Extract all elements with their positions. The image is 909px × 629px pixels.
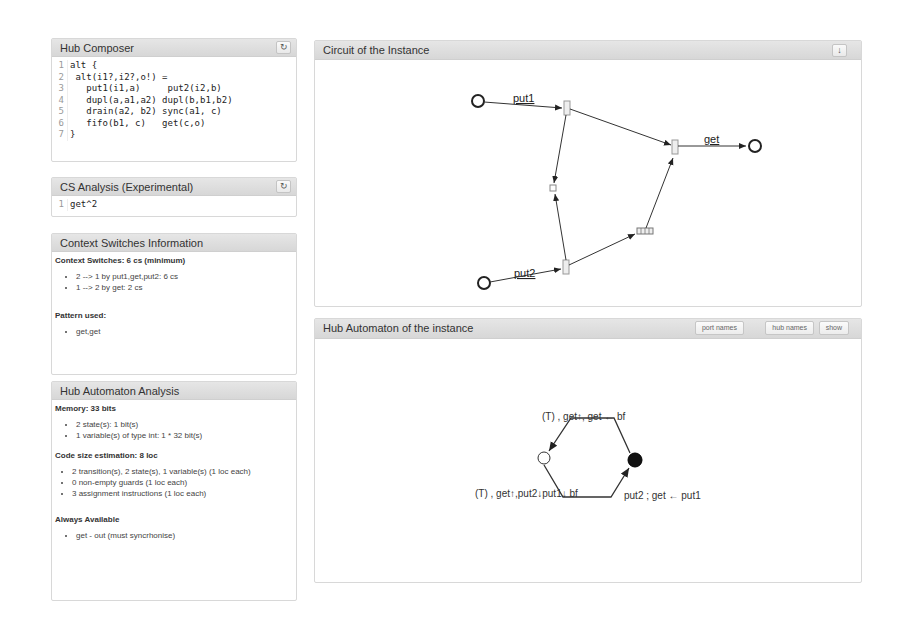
- hub-automaton-analysis-title: Hub Automaton Analysis: [60, 385, 179, 397]
- cs-analysis-title: CS Analysis (Experimental): [60, 181, 193, 193]
- bottom-left-transition-label: (T) , get↑,put2↓put1↓ bf: [475, 488, 578, 499]
- hub-composer-header: Hub Composer ↻: [52, 39, 296, 57]
- line-number: 7: [52, 129, 68, 141]
- line-number: 4: [52, 95, 68, 107]
- code-text: get^2: [70, 199, 97, 211]
- state-filled[interactable]: [628, 453, 642, 467]
- code-size-heading: Code size estimation: 8 loc: [55, 451, 296, 460]
- code-editor[interactable]: 1alt { 2 alt(i1?,i2?,o!) = 3 put1(i1,a) …: [52, 57, 296, 144]
- download-icon: ↓: [837, 45, 842, 55]
- download-button[interactable]: ↓: [832, 44, 847, 57]
- always-available-list: get - out (must syncrhonise): [52, 530, 296, 541]
- get-port-node[interactable]: [749, 140, 761, 152]
- code-text: }: [70, 129, 75, 141]
- list-item: get,get: [76, 326, 296, 337]
- pattern-list: get,get: [52, 326, 296, 337]
- code-size-list: 2 transition(s), 2 state(s), 1 variable(…: [52, 466, 296, 499]
- code-line: 3 put1(i1,a) put2(i2,b): [52, 83, 296, 95]
- refresh-icon: ↻: [280, 181, 288, 191]
- line-number: 1: [52, 60, 68, 72]
- code-text: drain(a2, b2) sync(a1, c): [70, 106, 222, 118]
- code-text: alt(i1?,i2?,o!) =: [70, 72, 168, 84]
- show-button[interactable]: show: [819, 321, 849, 335]
- always-available-heading: Always Available: [55, 515, 296, 524]
- code-line: 4 dupl(a,a1,a2) dupl(b,b1,b2): [52, 95, 296, 107]
- line-number: 1: [52, 199, 68, 211]
- cs-analysis-header: CS Analysis (Experimental) ↻: [52, 178, 296, 196]
- hub-automaton-analysis-panel: Hub Automaton Analysis Memory: 33 bits 2…: [51, 381, 297, 601]
- drain-node[interactable]: [550, 185, 556, 191]
- put2-label: put2: [514, 267, 535, 279]
- bottom-right-transition-label: put2 ; get ← put1: [624, 490, 701, 501]
- hub-automaton-analysis-header: Hub Automaton Analysis: [52, 382, 296, 400]
- code-line: 7}: [52, 129, 296, 141]
- hub-composer-title: Hub Composer: [60, 42, 134, 54]
- list-item: 1 --> 2 by get: 2 cs: [76, 282, 296, 293]
- list-item: 2 state(s): 1 bit(s): [76, 419, 296, 430]
- hub-names-button[interactable]: hub names: [765, 321, 814, 335]
- context-switches-title: Context Switches Information: [60, 237, 203, 249]
- memory-list: 2 state(s): 1 bit(s) 1 variable(s) of ty…: [52, 419, 296, 441]
- line-number: 5: [52, 106, 68, 118]
- list-item: 2 transition(s), 2 state(s), 1 variable(…: [72, 466, 296, 477]
- cs-code-editor[interactable]: 1get^2: [52, 196, 296, 214]
- cs-analysis-panel: CS Analysis (Experimental) ↻ 1get^2: [51, 177, 297, 217]
- line-number: 3: [52, 83, 68, 95]
- list-item: 1 variable(s) of type int: 1 * 32 bit(s): [76, 430, 296, 441]
- hub-composer-panel: Hub Composer ↻ 1alt { 2 alt(i1?,i2?,o!) …: [51, 38, 297, 162]
- put2-port-node[interactable]: [478, 277, 490, 289]
- circuit-title: Circuit of the Instance: [323, 44, 429, 56]
- memory-heading: Memory: 33 bits: [55, 404, 296, 413]
- code-text: put1(i1,a) put2(i2,b): [70, 83, 222, 95]
- refresh-button[interactable]: ↻: [276, 180, 291, 193]
- context-switches-list: 2 --> 1 by put1,get,put2: 6 cs 1 --> 2 b…: [52, 271, 296, 293]
- hub-automaton-title: Hub Automaton of the instance: [323, 322, 473, 334]
- put1-label: put1: [513, 92, 534, 104]
- circuit-diagram[interactable]: put1 get put2: [315, 60, 861, 306]
- automaton-diagram[interactable]: (T) , get↑, get ← bf (T) , get↑,put2↓put…: [315, 339, 861, 583]
- code-text: alt {: [70, 60, 97, 72]
- context-switches-heading: Context Switches: 6 cs (minimum): [55, 256, 296, 265]
- hub-node[interactable]: [563, 260, 569, 274]
- refresh-icon: ↻: [280, 42, 288, 52]
- hub-node[interactable]: [564, 101, 570, 115]
- list-item: 2 --> 1 by put1,get,put2: 6 cs: [76, 271, 296, 282]
- list-item: 3 assignment instructions (1 loc each): [72, 488, 296, 499]
- get-label: get: [704, 133, 719, 145]
- line-number: 6: [52, 118, 68, 130]
- code-text: dupl(a,a1,a2) dupl(b,b1,b2): [70, 95, 233, 107]
- port-names-button[interactable]: port names: [695, 321, 744, 335]
- put1-port-node[interactable]: [472, 95, 484, 107]
- hub-automaton-header: Hub Automaton of the instance port names…: [315, 319, 861, 339]
- code-line: 6 fifo(b1, c) get(c,o): [52, 118, 296, 130]
- list-item: 0 non-empty guards (1 loc each): [72, 477, 296, 488]
- list-item: get - out (must syncrhonise): [76, 530, 296, 541]
- pattern-heading: Pattern used:: [55, 311, 296, 320]
- code-line: 5 drain(a2, b2) sync(a1, c): [52, 106, 296, 118]
- context-switches-panel: Context Switches Information Context Swi…: [51, 233, 297, 375]
- code-line: 2 alt(i1?,i2?,o!) =: [52, 72, 296, 84]
- code-line: 1alt {: [52, 60, 296, 72]
- code-line: 1get^2: [52, 199, 296, 211]
- circuit-panel: Circuit of the Instance ↓ put1 get put2: [314, 40, 862, 307]
- top-transition-label: (T) , get↑, get ← bf: [542, 411, 626, 422]
- state-initial[interactable]: [538, 452, 550, 464]
- hub-automaton-panel: Hub Automaton of the instance port names…: [314, 318, 862, 583]
- circuit-header: Circuit of the Instance ↓: [315, 41, 861, 60]
- line-number: 2: [52, 72, 68, 84]
- context-switches-header: Context Switches Information: [52, 234, 296, 252]
- hub-node[interactable]: [672, 140, 678, 154]
- refresh-button[interactable]: ↻: [276, 41, 291, 54]
- code-text: fifo(b1, c) get(c,o): [70, 118, 205, 130]
